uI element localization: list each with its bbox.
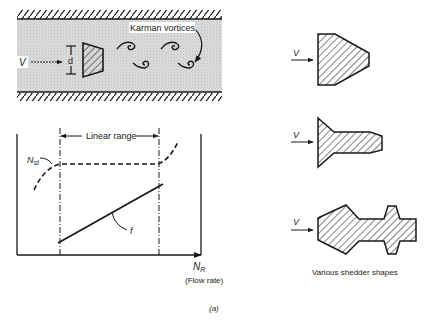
figure-caption: (a) xyxy=(209,304,219,313)
shedders-title: Various shedder shapes xyxy=(312,268,398,277)
frequency-pointer xyxy=(112,212,127,230)
frequency-line xyxy=(58,184,163,243)
karman-vortices-label: Karman vortices xyxy=(130,23,196,33)
pipe-bottom-wall-hatching xyxy=(17,93,222,101)
strouhal-graph: Linear range Nst f NR (Flow rate) xyxy=(17,128,224,285)
bluff-body xyxy=(83,43,103,77)
strouhal-pointer xyxy=(40,158,52,164)
strouhal-number-curve xyxy=(34,142,178,190)
x-axis-label: NR xyxy=(193,261,205,273)
linear-range-label: Linear range xyxy=(86,131,137,141)
trapezoidal-shedder xyxy=(318,34,369,85)
t-shaped-shedder xyxy=(318,118,382,167)
strouhal-label: Nst xyxy=(27,155,40,166)
shape1-velocity-label: V xyxy=(293,48,300,58)
frequency-label: f xyxy=(130,226,134,236)
pipe-top-wall-hatching xyxy=(17,10,222,19)
diameter-label: d xyxy=(68,56,73,66)
vortex-flowmeter-figure: V d Karman vortices Linear xyxy=(0,0,431,323)
shape2-velocity-label: V xyxy=(293,130,300,140)
x-axis-description: (Flow rate) xyxy=(185,276,224,285)
pipe-flow-diagram: V d Karman vortices xyxy=(17,10,222,101)
shape3-velocity-label: V xyxy=(293,217,300,227)
shedder-shapes: V V V Various shedder shapes xyxy=(291,34,416,277)
complex-shedder xyxy=(318,205,416,254)
